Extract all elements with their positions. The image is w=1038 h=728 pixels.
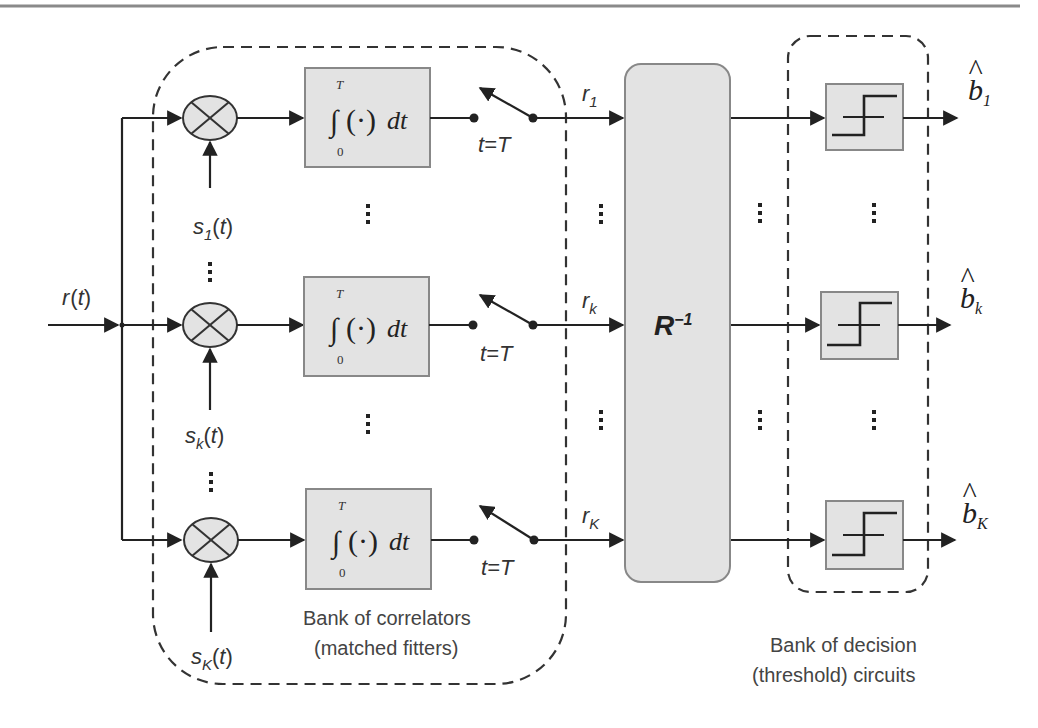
svg-text:0: 0 (337, 352, 344, 367)
svg-text:T: T (338, 498, 346, 513)
svg-text:0: 0 (337, 144, 344, 159)
decision-bank-caption-line1: Bank of decision (770, 634, 917, 656)
svg-text:∫: ∫ (328, 312, 340, 348)
svg-text:0: 0 (339, 565, 346, 580)
svg-text:(·): (·) (348, 524, 378, 558)
output-label-K: rK (582, 503, 600, 532)
output-label-k: rk (582, 288, 598, 317)
svg-text:∫: ∫ (328, 104, 340, 140)
sampling-switch (470, 506, 539, 545)
decision-bank-caption-line2: (threshold) circuits (752, 664, 915, 686)
signal-label-1: s1(t) (193, 214, 233, 243)
threshold-block (821, 292, 898, 359)
correlator-bank-caption-line1: Bank of correlators (303, 607, 471, 629)
multiplier-icon (183, 96, 237, 140)
multiplier-icon (184, 518, 238, 562)
integrator-block: T ∫ (·) dt 0 (304, 277, 429, 376)
input-signal: r(t) (48, 118, 125, 540)
integrator-block: T ∫ (·) dt 0 (306, 489, 431, 589)
switch-label: t=T (480, 341, 514, 366)
switch-label: t=T (478, 132, 512, 157)
output-label-1: r1 (582, 81, 598, 110)
integrator-block: T ∫ (·) dt 0 (305, 68, 430, 167)
signal-label-k: sk(t) (185, 423, 224, 452)
svg-text:dt: dt (389, 527, 410, 556)
input-label: r(t) (62, 285, 91, 310)
signal-label-K: sK(t) (191, 644, 233, 673)
threshold-block (826, 501, 903, 569)
multiplier-icon (183, 303, 237, 347)
sampling-switch (469, 295, 538, 330)
svg-text:T: T (336, 77, 344, 92)
threshold-block (826, 84, 903, 150)
sampling-switch (470, 88, 538, 123)
svg-text:∫: ∫ (330, 525, 342, 561)
switch-label: t=T (481, 555, 515, 580)
svg-text:dt: dt (387, 314, 408, 343)
svg-text:dt: dt (387, 106, 408, 135)
correlator-bank-caption-line2: (matched fitters) (314, 637, 458, 659)
svg-text:(·): (·) (346, 311, 376, 345)
row-k: sk(t) T ∫ (·) dt 0 t=T rk bk ^ (122, 261, 983, 452)
diagram-canvas: r(t) s1(t) T ∫ (·) dt 0 t=T r1 (0, 0, 1038, 728)
inverse-correlation-matrix-block: R−1 (625, 64, 730, 582)
svg-text:T: T (336, 286, 344, 301)
svg-text:(·): (·) (346, 103, 376, 137)
